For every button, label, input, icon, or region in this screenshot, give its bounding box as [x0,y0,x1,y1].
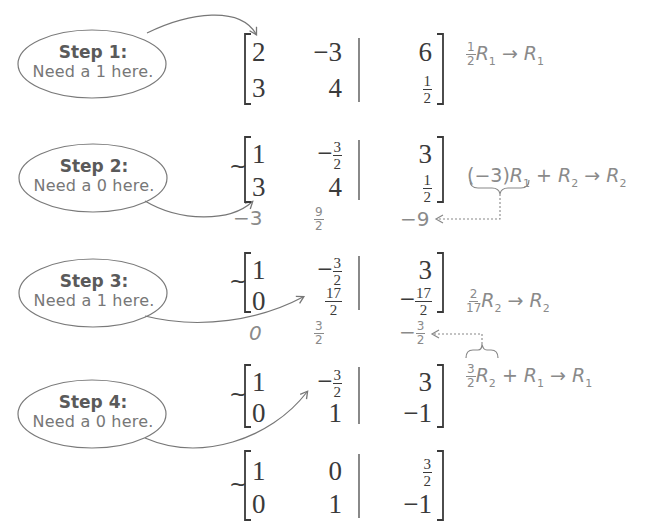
dotted-arrow-step4 [433,334,482,344]
m1-r1c2: −3 [290,37,342,67]
m5-r1c2: 0 [290,456,342,486]
m2-r1c3: 3 [395,139,432,169]
step4-callout: Step 4: Need a 0 here. [18,392,168,432]
m2-r2c1: 3 [252,172,266,202]
m5-r1c3: 32 [395,455,432,488]
m4-r1c2: −32 [290,366,342,399]
step4-arrow [145,392,307,448]
m5-r2c2: 1 [290,489,342,519]
m3-r1c1: 1 [252,255,266,285]
m2-r2c3: 12 [395,171,432,204]
step1-arrow [147,15,256,34]
m5-r2c1: 0 [252,489,266,519]
step3-callout: Step 3: Need a 1 here. [19,271,169,311]
row-equivalent-tilde: ~ [229,153,247,178]
step1-title: Step 1: [18,42,168,62]
m3-r1c2: −32 [290,254,342,287]
m1-r1c1: 2 [252,37,266,67]
operation-3: 217R2 → R2 [466,289,550,320]
m3-r2c3: −172 [385,284,432,317]
helper1-c3: −9 [400,208,429,230]
m5-r2c3: −1 [385,489,432,519]
row-equivalent-tilde: ~ [229,381,247,406]
operation-4: 32R2 + R1 → R1 [466,364,592,395]
step1-callout: Step 1: Need a 1 here. [18,42,168,82]
step4-title: Step 4: [18,392,168,412]
m2-r2c2: 4 [290,172,342,202]
step2-title: Step 2: [19,156,169,176]
step2-body: Need a 0 here. [19,176,169,196]
step4-body: Need a 0 here. [18,412,168,432]
step1-body: Need a 1 here. [18,62,168,82]
m1-r2c2: 4 [290,73,342,103]
m3-r1c3: 3 [395,255,432,285]
m2-r1c1: 1 [252,139,266,169]
dotted-arrow-step2 [437,194,500,219]
helper2-c2: 32 [314,321,324,346]
helper1-c1: −3 [233,207,262,229]
helper1-c2: 92 [314,207,324,232]
helper2-c1: 0 [249,322,262,344]
m4-r2c1: 0 [252,398,266,428]
m2-r1c2: −32 [290,138,342,171]
row-equivalent-tilde: ~ [229,268,247,293]
operation-1: 12R1 → R1 [466,42,544,73]
step3-title: Step 3: [19,271,169,291]
m4-r1c1: 1 [252,367,266,397]
row-equivalent-tilde: ~ [229,471,247,496]
m4-r2c2: 1 [290,398,342,428]
m5-r1c1: 1 [252,456,266,486]
m4-r1c3: 3 [395,367,432,397]
m3-r2c1: 0 [252,286,266,316]
helper2-c3: −32 [399,321,425,346]
step3-body: Need a 1 here. [19,291,169,311]
m1-r1c3: 6 [395,37,432,67]
m3-r2c2: 172 [290,284,342,317]
brace-step4 [466,344,498,358]
m4-r2c3: −1 [385,398,432,428]
step2-callout: Step 2: Need a 0 here. [19,156,169,196]
m1-r2c3: 12 [395,72,432,105]
m1-r2c1: 3 [252,73,266,103]
operation-2: (−3)R1 + R2 → R2 [467,164,626,195]
